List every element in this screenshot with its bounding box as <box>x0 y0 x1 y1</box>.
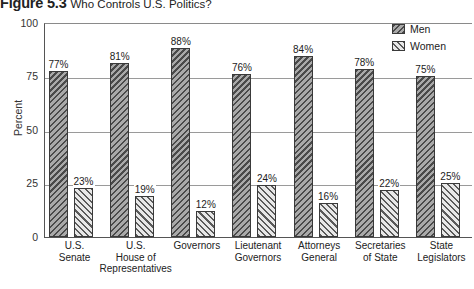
bar-value-label: 12% <box>195 199 217 210</box>
bar-group: 75%25% <box>412 24 473 237</box>
bar-group: 84%16% <box>290 24 351 237</box>
bar-men[interactable]: 76% <box>232 74 251 237</box>
bars-layer: 77%23%81%19%88%12%76%24%84%16%78%22%75%2… <box>45 24 472 237</box>
bar-value-label: 88% <box>170 36 192 47</box>
bar-men[interactable]: 81% <box>110 63 129 237</box>
bar-chart: Percent 100 75 50 25 0 77%23%81%19%88%12… <box>0 0 474 289</box>
legend: Men Women <box>392 21 472 55</box>
y-tick-75: 75 <box>2 71 38 81</box>
legend-item-men[interactable]: Men <box>392 21 472 36</box>
y-tick-50: 50 <box>2 125 38 135</box>
bar-women[interactable]: 24% <box>257 185 276 237</box>
bar-group: 81%19% <box>106 24 167 237</box>
bar-women[interactable]: 23% <box>74 188 93 237</box>
bar-value-label: 22% <box>378 178 400 189</box>
bar-value-label: 24% <box>256 173 278 184</box>
bar-value-label: 76% <box>231 62 253 73</box>
legend-item-women[interactable]: Women <box>392 38 472 53</box>
bar-group: 77%23% <box>45 24 106 237</box>
bar-value-label: 25% <box>439 171 461 182</box>
legend-label-men: Men <box>410 23 430 35</box>
y-tick-25: 25 <box>2 178 38 188</box>
legend-swatch-men-icon <box>392 24 405 34</box>
bar-value-label: 16% <box>317 191 339 202</box>
bar-value-label: 84% <box>292 44 314 55</box>
bar-value-label: 77% <box>47 59 69 70</box>
bar-women[interactable]: 25% <box>441 183 460 237</box>
bar-men[interactable]: 77% <box>49 71 68 237</box>
bar-women[interactable]: 22% <box>380 190 399 237</box>
y-tick-0: 0 <box>2 232 38 242</box>
bar-men[interactable]: 88% <box>171 48 190 237</box>
bar-men[interactable]: 75% <box>416 76 435 237</box>
bar-value-label: 75% <box>414 64 436 75</box>
bar-value-label: 78% <box>353 57 375 68</box>
bar-women[interactable]: 16% <box>319 203 338 237</box>
x-axis-label: StateLegislators <box>402 240 474 263</box>
bar-value-label: 19% <box>134 184 156 195</box>
bar-women[interactable]: 12% <box>196 211 215 237</box>
bar-women[interactable]: 19% <box>135 196 154 237</box>
bar-value-label: 23% <box>72 176 94 187</box>
bar-group: 76%24% <box>228 24 289 237</box>
bar-group: 78%22% <box>351 24 412 237</box>
bar-value-label: 81% <box>109 51 131 62</box>
bar-men[interactable]: 78% <box>355 69 374 237</box>
legend-swatch-women-icon <box>392 41 405 51</box>
bar-group: 88%12% <box>167 24 228 237</box>
plot-area: 77%23%81%19%88%12%76%24%84%16%78%22%75%2… <box>44 23 472 238</box>
bar-men[interactable]: 84% <box>294 56 313 237</box>
legend-label-women: Women <box>410 40 446 52</box>
x-axis-labels: U.S.SenateU.S.House ofRepresentativesGov… <box>44 240 472 288</box>
y-tick-100: 100 <box>2 18 38 28</box>
